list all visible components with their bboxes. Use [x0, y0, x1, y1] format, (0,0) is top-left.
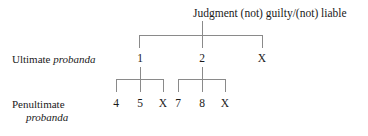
row-label-penultimate-probanda: Penultimateprobanda [12, 98, 68, 124]
row-label-ultimate-italic: probanda [53, 53, 95, 65]
probanda-tree-diagram: Judgment (not) guilty/(not) liable Ultim… [0, 0, 368, 136]
left-subtree-leg-4 [116, 79, 117, 92]
title-connector-stub [202, 21, 203, 35]
penultimate-node-8: 8 [193, 97, 211, 110]
penultimate-node-4: 4 [107, 97, 125, 110]
top-bracket-left-leg [139, 35, 140, 48]
ultimate-node-x: X [252, 52, 272, 65]
left-subtree-leg-5 [140, 79, 141, 92]
node-1-descender-stub [140, 67, 141, 79]
ultimate-node-1: 1 [130, 52, 150, 65]
row-label-ultimate-plain: Ultimate [12, 53, 53, 65]
ultimate-node-2: 2 [192, 52, 212, 65]
top-bracket-middle-leg [202, 35, 203, 48]
right-subtree-leg-x [225, 79, 226, 92]
row-label-ultimate-probanda: Ultimate probanda [12, 53, 96, 66]
top-bracket-horizontal [139, 35, 263, 36]
penultimate-node-x-right: X [216, 97, 234, 110]
row-label-penultimate-line2: probanda [12, 111, 68, 124]
penultimate-node-7: 7 [169, 97, 187, 110]
left-subtree-leg-x [163, 79, 164, 92]
penultimate-node-5: 5 [131, 97, 149, 110]
diagram-title: Judgment (not) guilty/(not) liable [193, 6, 347, 20]
row-label-penultimate-line1: Penultimate [12, 98, 65, 110]
right-subtree-leg-7 [178, 79, 179, 92]
top-bracket-right-leg [262, 35, 263, 48]
node-2-descender-stub [202, 67, 203, 79]
right-subtree-leg-8 [202, 79, 203, 92]
